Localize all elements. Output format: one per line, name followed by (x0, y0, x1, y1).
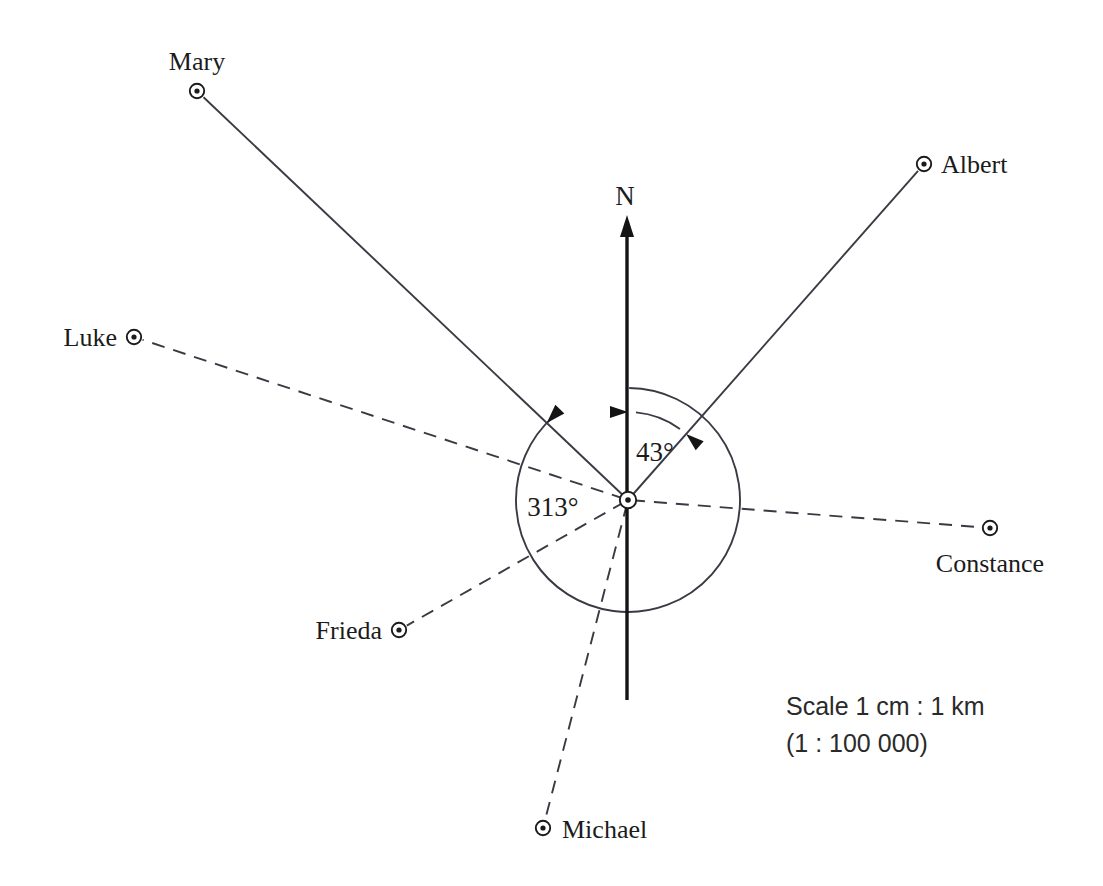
bearing-diagram-canvas: N MaryAlbertLukeConstanceFriedaMichael 4… (0, 0, 1103, 886)
observation-point-marker (620, 492, 636, 508)
north-arrowhead-icon (620, 215, 634, 237)
center-dot-icon (625, 497, 631, 503)
place-marker-frieda: Frieda (316, 616, 407, 645)
marker-dot-icon (921, 161, 926, 166)
north-label: N (615, 181, 635, 211)
bearing-diagram: N MaryAlbertLukeConstanceFriedaMichael 4… (0, 0, 1103, 886)
place-marker-constance: Constance (936, 521, 1044, 578)
scale-line-2: (1 : 100 000) (786, 729, 928, 757)
place-marker-luke: Luke (64, 323, 142, 352)
marker-dot-icon (396, 627, 401, 632)
arc-313-arrowhead (547, 405, 565, 423)
place-label-constance: Constance (936, 549, 1044, 578)
place-label-mary: Mary (169, 47, 225, 76)
marker-dot-icon (131, 334, 136, 339)
ray-to-michael (545, 504, 627, 819)
angle-label-43: 43° (636, 437, 674, 467)
scale-line-1: Scale 1 cm : 1 km (786, 692, 985, 720)
place-label-albert: Albert (941, 150, 1008, 179)
place-marker-michael: Michael (536, 815, 647, 844)
marker-dot-icon (194, 88, 199, 93)
arc-43-degrees (636, 412, 680, 429)
ray-to-constance (632, 500, 981, 527)
place-label-luke: Luke (64, 323, 117, 352)
place-marker-mary: Mary (169, 47, 225, 98)
angle-label-313: 313° (527, 492, 578, 522)
place-label-frieda: Frieda (316, 616, 383, 645)
place-markers-group: MaryAlbertLukeConstanceFriedaMichael (64, 47, 1045, 844)
place-marker-albert: Albert (917, 150, 1008, 179)
arc-43-arrowhead-albert (686, 434, 703, 450)
marker-dot-icon (987, 525, 992, 530)
ray-to-mary (204, 97, 626, 497)
place-label-michael: Michael (562, 815, 647, 844)
marker-dot-icon (540, 825, 545, 830)
